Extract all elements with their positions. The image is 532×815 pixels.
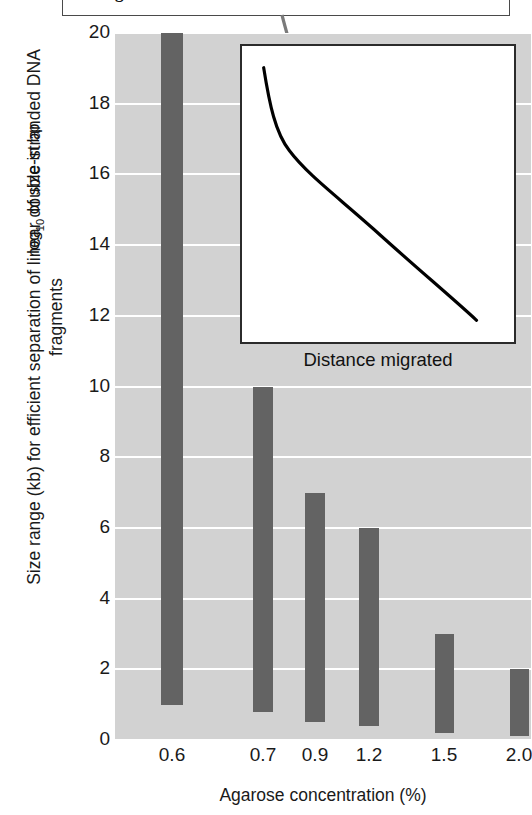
y-axis-tick-label: 8 xyxy=(62,445,110,467)
y-axis-tick-label: 20 xyxy=(62,21,110,43)
bar-2.0 xyxy=(510,669,529,736)
inset-y-label-prefix: log xyxy=(24,231,43,254)
y-axis-tick-label: 12 xyxy=(62,304,110,326)
bar-0.7 xyxy=(253,387,273,712)
y-axis-tick-label: 0 xyxy=(62,728,110,750)
x-axis-tick-labels: 0.60.70.91.21.52.0 xyxy=(115,744,531,776)
x-axis-tick-label: 1.2 xyxy=(356,744,382,766)
bar-0.6 xyxy=(161,33,183,705)
x-axis-tick-label: 1.5 xyxy=(431,744,457,766)
x-axis-tick-label: 0.9 xyxy=(302,744,328,766)
y-axis-tick-label: 6 xyxy=(62,516,110,538)
inset-y-axis-label: log10 of size in bp xyxy=(24,84,45,294)
inset-x-axis-label: Distance migrated xyxy=(240,349,516,371)
x-axis-tick-label: 0.7 xyxy=(250,744,276,766)
y-axis-tick-labels: 02468101214161820 xyxy=(62,0,110,815)
x-axis-tick-label: 0.6 xyxy=(159,744,185,766)
y-axis-tick-label: 18 xyxy=(62,92,110,114)
inset-calibration-curve xyxy=(264,68,477,321)
x-axis-tick-label: 2.0 xyxy=(506,744,532,766)
bar-1.5 xyxy=(435,634,454,733)
inset-curve-svg xyxy=(242,46,514,342)
y-axis-tick-label: 10 xyxy=(62,375,110,397)
bar-1.2 xyxy=(359,528,379,726)
y-axis-tick-label: 4 xyxy=(62,587,110,609)
bar-0.9 xyxy=(305,493,325,723)
y-axis-tick-label: 16 xyxy=(62,162,110,184)
inset-y-label-suffix: of size in bp xyxy=(24,124,43,219)
inset-y-label-subscript: 10 xyxy=(34,219,46,231)
gridline xyxy=(115,739,531,740)
callout-box: of fragment size xyxy=(62,0,510,16)
inset-chart xyxy=(240,44,516,344)
x-axis-title: Agarose concentration (%) xyxy=(115,785,531,806)
y-axis-tick-label: 14 xyxy=(62,233,110,255)
y-axis-tick-label: 2 xyxy=(62,657,110,679)
